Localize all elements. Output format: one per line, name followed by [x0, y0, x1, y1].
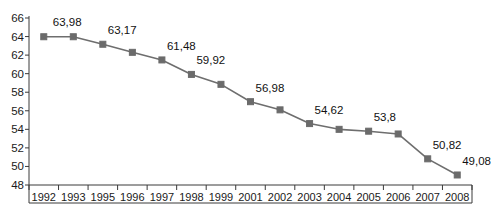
- data-point-marker: [336, 126, 342, 132]
- chart-plot-area: [0, 0, 494, 211]
- line-chart: 66646260585654525048 1992199319951996199…: [0, 0, 494, 211]
- data-point-marker: [366, 128, 372, 134]
- data-point-marker: [218, 81, 224, 87]
- data-point-marker: [159, 57, 165, 63]
- data-point-marker: [395, 131, 401, 137]
- data-point-marker: [41, 34, 47, 40]
- data-point-marker: [100, 41, 106, 47]
- data-point-marker: [277, 107, 283, 113]
- data-point-marker: [248, 99, 254, 105]
- data-point-marker: [454, 172, 460, 178]
- data-point-marker: [188, 71, 194, 77]
- data-point-marker: [70, 34, 76, 40]
- data-point-marker: [425, 156, 431, 162]
- series-line: [44, 37, 457, 175]
- data-point-marker: [307, 121, 313, 127]
- chart-series: [41, 34, 460, 178]
- data-point-marker: [129, 49, 135, 55]
- chart-axes: [25, 16, 472, 203]
